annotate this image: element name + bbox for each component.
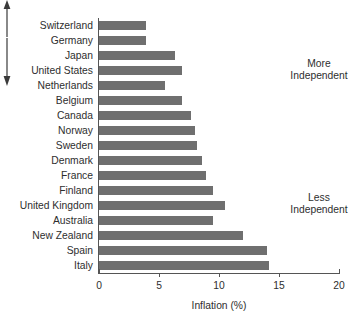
bar-row bbox=[99, 258, 339, 274]
category-label: Italy bbox=[74, 258, 93, 274]
x-tick-label: 15 bbox=[273, 280, 284, 291]
category-label: Denmark bbox=[51, 153, 93, 169]
bar-row bbox=[99, 108, 339, 124]
category-label: Spain bbox=[67, 243, 93, 259]
bar-row bbox=[99, 93, 339, 109]
category-label: United Kingdom bbox=[20, 198, 93, 214]
x-tick-mark bbox=[279, 273, 280, 277]
x-axis-title: Inflation (%) bbox=[99, 300, 339, 311]
annotation-less-line1: Less bbox=[281, 192, 357, 204]
bar-row bbox=[99, 228, 339, 244]
category-label: Switzerland bbox=[40, 18, 93, 34]
bar-row bbox=[99, 123, 339, 139]
category-label: New Zealand bbox=[32, 228, 93, 244]
category-label: Australia bbox=[53, 213, 93, 229]
bar-row bbox=[99, 168, 339, 184]
category-label: France bbox=[61, 168, 93, 184]
bar bbox=[99, 141, 197, 150]
x-tick-label: 5 bbox=[156, 280, 162, 291]
less-independent-arrow-down-icon bbox=[0, 38, 14, 86]
bar-row bbox=[99, 33, 339, 49]
bar bbox=[99, 81, 165, 90]
bar bbox=[99, 186, 213, 195]
category-label: United States bbox=[31, 63, 93, 79]
bar bbox=[99, 261, 269, 270]
bar bbox=[99, 231, 243, 240]
bar bbox=[99, 126, 195, 135]
annotation-more-line2: Independent bbox=[281, 70, 357, 82]
bar bbox=[99, 66, 182, 75]
bar bbox=[99, 171, 206, 180]
bar-row bbox=[99, 18, 339, 34]
bar bbox=[99, 111, 191, 120]
category-label: Norway bbox=[58, 123, 93, 139]
bar-row bbox=[99, 138, 339, 154]
bar bbox=[99, 201, 225, 210]
bar bbox=[99, 36, 146, 45]
bar bbox=[99, 156, 202, 165]
bar bbox=[99, 216, 213, 225]
category-label: Canada bbox=[57, 108, 93, 124]
more-independent-arrow-up-icon bbox=[0, 0, 14, 38]
x-tick-label: 10 bbox=[213, 280, 224, 291]
category-label: Sweden bbox=[56, 138, 93, 154]
bar-row bbox=[99, 243, 339, 259]
x-tick-label: 0 bbox=[96, 280, 102, 291]
category-label: Netherlands bbox=[37, 78, 93, 94]
bar bbox=[99, 96, 182, 105]
category-label: Finland bbox=[59, 183, 93, 199]
category-label: Japan bbox=[65, 48, 93, 64]
x-tick-label: 20 bbox=[333, 280, 344, 291]
x-tick-mark bbox=[339, 269, 340, 274]
category-label: Belgium bbox=[56, 93, 93, 109]
y-axis-line bbox=[98, 18, 99, 274]
x-tick-mark bbox=[99, 269, 100, 274]
annotation-more-independent: More Independent bbox=[281, 58, 357, 82]
bar bbox=[99, 246, 267, 255]
bar bbox=[99, 51, 175, 60]
category-label: Germany bbox=[51, 33, 93, 49]
annotation-more-line1: More bbox=[281, 58, 357, 70]
bar bbox=[99, 21, 146, 30]
bar-row bbox=[99, 153, 339, 169]
annotation-less-line2: Independent bbox=[281, 204, 357, 216]
plot-area bbox=[99, 18, 339, 273]
inflation-by-country-bar-chart: SwitzerlandGermanyJapanUnited StatesNeth… bbox=[0, 0, 359, 335]
x-tick-mark bbox=[159, 273, 160, 277]
x-tick-mark bbox=[219, 273, 220, 277]
annotation-less-independent: Less Independent bbox=[281, 192, 357, 216]
